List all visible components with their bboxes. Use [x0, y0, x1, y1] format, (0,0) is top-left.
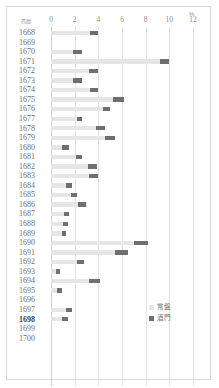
bar-sakado-1695	[57, 288, 62, 292]
chart-plot-area: %西暦0246810121668166916701671167216731674…	[7, 7, 210, 379]
bar-sakado-1693	[56, 269, 61, 273]
bar-sakado-1694	[89, 279, 100, 283]
y-tick-label-1699: 1699	[19, 324, 45, 334]
x-tick-label-0: 0	[49, 15, 53, 24]
y-tick-label-1696: 1696	[19, 295, 45, 305]
bar-sakado-1697	[66, 308, 72, 312]
y-tick-label-1695: 1695	[19, 286, 45, 296]
bar-sakado-1688	[63, 222, 68, 226]
chart-row: 1673	[7, 76, 210, 86]
chart-row: 1671	[7, 57, 210, 67]
y-tick-label-1679: 1679	[19, 133, 45, 143]
bar-tokiwa-1676	[51, 107, 110, 111]
chart-row: 1689	[7, 229, 210, 239]
x-tick-label-8: 8	[144, 15, 148, 24]
y-tick-label-1668: 1668	[19, 28, 45, 38]
bar-sakado-1680	[62, 145, 69, 149]
chart-row: 1675	[7, 95, 210, 105]
bar-sakado-1681	[76, 155, 82, 159]
y-tick-label-1698: 1698	[19, 315, 45, 325]
legend-label: 酒門	[157, 314, 171, 323]
x-tick-label-4: 4	[96, 15, 100, 24]
chart-row: 1690	[7, 238, 210, 248]
y-tick-label-1671: 1671	[19, 57, 45, 67]
chart-row: 1699	[7, 324, 210, 334]
y-tick-label-1685: 1685	[19, 190, 45, 200]
y-tick-label-1700: 1700	[19, 334, 45, 344]
chart-row: 1676	[7, 104, 210, 114]
chart-row: 1697	[7, 305, 210, 315]
bar-sakado-1679	[105, 136, 114, 140]
y-tick-label-1686: 1686	[19, 200, 45, 210]
chart-row: 1695	[7, 286, 210, 296]
bar-sakado-1672	[89, 69, 98, 73]
bar-sakado-1677	[77, 117, 82, 121]
bar-sakado-1698	[62, 317, 68, 321]
chart-row: 1694	[7, 276, 210, 286]
y-tick-label-1690: 1690	[19, 238, 45, 248]
chart-row: 1678	[7, 124, 210, 134]
x-tick-label-10: 10	[166, 15, 174, 24]
chart-row: 1698	[7, 315, 210, 325]
legend-label: 常盤	[157, 303, 171, 312]
chart-row: 1668	[7, 28, 210, 38]
bar-sakado-1685	[71, 193, 77, 197]
bar-sakado-1671	[160, 59, 169, 63]
chart-row: 1670	[7, 47, 210, 57]
chart-row: 1685	[7, 190, 210, 200]
chart-row: 1684	[7, 181, 210, 191]
bar-sakado-1675	[113, 97, 125, 101]
chart-row: 1681	[7, 152, 210, 162]
y-tick-label-1673: 1673	[19, 76, 45, 86]
bar-sakado-1670	[73, 50, 81, 54]
y-tick-label-1694: 1694	[19, 276, 45, 286]
chart-row: 1692	[7, 257, 210, 267]
y-tick-label-1676: 1676	[19, 104, 45, 114]
bar-sakado-1683	[89, 174, 98, 178]
x-tick-label-6: 6	[120, 15, 124, 24]
y-tick-label-1684: 1684	[19, 181, 45, 191]
y-tick-label-1683: 1683	[19, 171, 45, 181]
chart-row: 1669	[7, 38, 210, 48]
y-axis-label: 西暦	[21, 17, 31, 24]
bar-sakado-1673	[73, 78, 81, 82]
chart-row: 1686	[7, 200, 210, 210]
y-tick-label-1693: 1693	[19, 267, 45, 277]
bar-tokiwa-1671	[51, 59, 169, 63]
y-tick-label-1681: 1681	[19, 152, 45, 162]
y-tick-label-1688: 1688	[19, 219, 45, 229]
bar-sakado-1676	[103, 107, 110, 111]
y-tick-label-1689: 1689	[19, 229, 45, 239]
y-tick-label-1692: 1692	[19, 257, 45, 267]
legend-swatch-icon	[149, 316, 154, 321]
y-tick-label-1672: 1672	[19, 66, 45, 76]
y-tick-label-1687: 1687	[19, 209, 45, 219]
y-tick-label-1697: 1697	[19, 305, 45, 315]
y-tick-label-1680: 1680	[19, 143, 45, 153]
chart-row: 1687	[7, 209, 210, 219]
y-tick-label-1675: 1675	[19, 95, 45, 105]
y-tick-label-1678: 1678	[19, 124, 45, 134]
chart-row: 1683	[7, 171, 210, 181]
bar-sakado-1691	[115, 250, 128, 254]
bar-sakado-1689	[62, 231, 67, 235]
y-tick-label-1669: 1669	[19, 38, 45, 48]
bar-sakado-1678	[96, 126, 105, 130]
y-tick-label-1670: 1670	[19, 47, 45, 57]
chart-row: 1691	[7, 248, 210, 258]
bar-sakado-1668	[90, 31, 98, 35]
chart-row: 1693	[7, 267, 210, 277]
y-tick-label-1674: 1674	[19, 85, 45, 95]
y-tick-label-1691: 1691	[19, 248, 45, 258]
x-tick-label-2: 2	[73, 15, 77, 24]
chart-row: 1688	[7, 219, 210, 229]
bar-sakado-1682	[88, 164, 97, 168]
bar-sakado-1690	[134, 241, 148, 245]
y-tick-label-1677: 1677	[19, 114, 45, 124]
bar-sakado-1686	[78, 202, 86, 206]
chart-row: 1682	[7, 162, 210, 172]
chart-frame: %西暦0246810121668166916701671167216731674…	[6, 6, 211, 380]
chart-row: 1672	[7, 66, 210, 76]
chart-row: 1680	[7, 143, 210, 153]
bar-sakado-1687	[64, 212, 69, 216]
